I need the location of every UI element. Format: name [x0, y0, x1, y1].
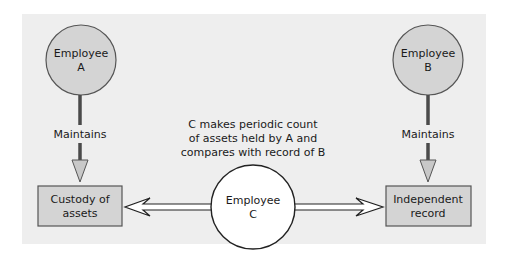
- employee-a-node: Employee A: [46, 25, 116, 95]
- record-box-line1: Independent: [393, 193, 463, 206]
- custody-box-line1: Custody of: [50, 193, 110, 206]
- employee-c-circle: [211, 165, 295, 249]
- custody-box-line2: assets: [62, 207, 97, 220]
- employee-a-label-line2: A: [77, 61, 85, 74]
- employee-a-circle: [46, 25, 116, 95]
- internal-control-diagram: Employee A Maintains Custody of assets E…: [0, 0, 506, 260]
- employee-c-label-line1: Employee: [226, 194, 281, 207]
- caption-line1: C makes periodic count: [188, 118, 318, 131]
- custody-of-assets-box: Custody of assets: [38, 186, 122, 226]
- caption-line2: of assets held by A and: [189, 132, 318, 145]
- employee-b-circle: [393, 25, 463, 95]
- maintains-label-a: Maintains: [53, 128, 106, 141]
- employee-b-label-line1: Employee: [401, 47, 456, 60]
- record-box-line2: record: [410, 207, 445, 220]
- caption-line3: compares with record of B: [181, 146, 326, 159]
- employee-c-label-line2: C: [249, 208, 257, 221]
- employee-b-label-line2: B: [424, 61, 432, 74]
- employee-a-label-line1: Employee: [54, 47, 109, 60]
- employee-c-node: Employee C: [211, 165, 295, 249]
- caption: C makes periodic count of assets held by…: [181, 118, 326, 159]
- independent-record-box: Independent record: [386, 186, 471, 226]
- maintains-label-b: Maintains: [401, 128, 454, 141]
- employee-b-node: Employee B: [393, 25, 463, 95]
